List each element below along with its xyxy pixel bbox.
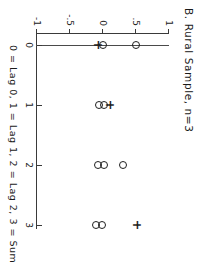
y-axis-tick-label: 1 [164, 20, 174, 26]
data-point-plus [131, 220, 144, 231]
y-axis-tick [36, 29, 37, 34]
data-point-plus [103, 100, 116, 111]
data-point-circle [132, 41, 140, 49]
x-axis-tick-label: 0 [24, 42, 34, 48]
x-axis-tick-label: 1 [24, 102, 34, 108]
x-axis-tick-label: 2 [24, 162, 34, 168]
x-axis-line [36, 33, 37, 229]
y-axis-tick-label: 0 [98, 20, 108, 26]
data-point-circle [119, 161, 127, 169]
data-point-plus [91, 40, 104, 51]
y-axis-tick-label: .5 [131, 17, 141, 26]
y-axis-tick-label: -.5 [65, 14, 75, 26]
x-axis-tick-label: 3 [24, 222, 34, 228]
y-axis-tick [102, 29, 103, 34]
x-axis-tick [37, 45, 42, 46]
y-axis-tick [69, 29, 70, 34]
data-point-circle [92, 221, 100, 229]
y-axis-tick [135, 29, 136, 34]
y-axis-tick-label: -1 [32, 17, 42, 26]
x-axis-tick [37, 165, 42, 166]
x-axis-tick [37, 105, 42, 106]
x-axis-tick [37, 225, 42, 226]
x-axis-label: 0 = Lag 0, 1 = Lag 1, 2 = Lag 2, 3 = Sum [8, 45, 19, 263]
data-point-circle [94, 161, 102, 169]
y-axis-tick [168, 29, 169, 34]
